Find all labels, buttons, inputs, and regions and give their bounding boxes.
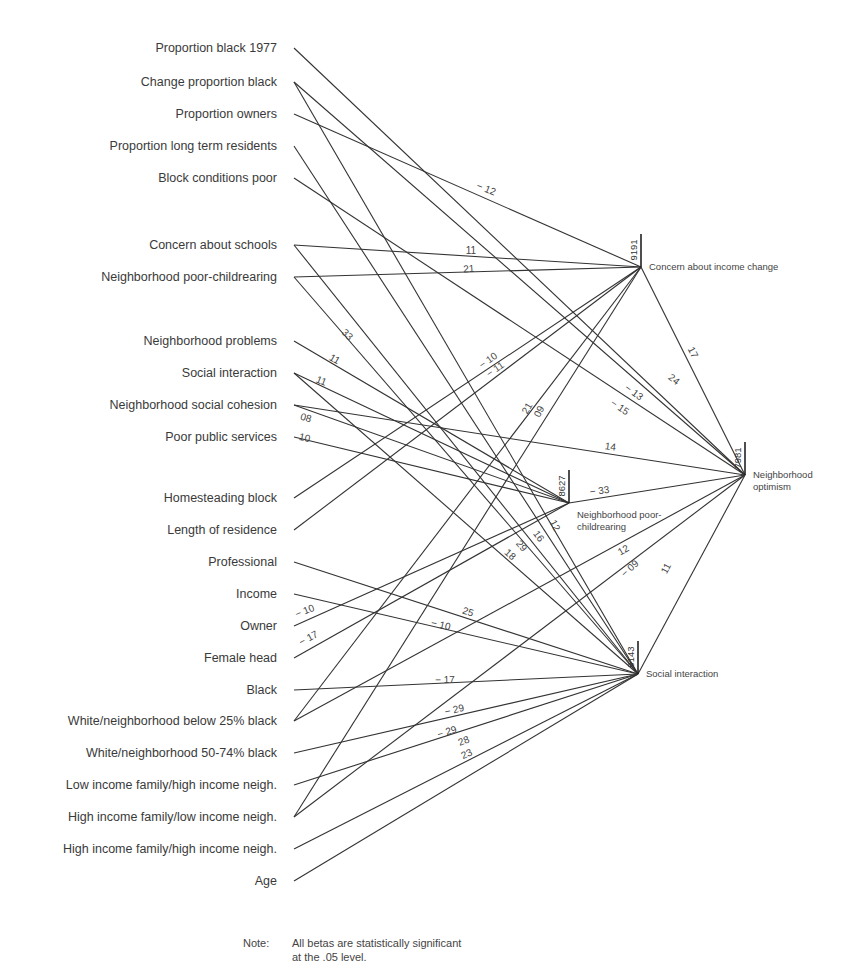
predictor-label: Neighborhood social cohesion [110,398,278,412]
beta-coefficient: − 10 [430,617,452,632]
predictor-label: High income family/low income neigh. [68,810,277,824]
beta-coefficient: − 09 [619,557,641,579]
path-edge [294,405,569,503]
predictor-label: Social interaction [182,366,277,380]
path-edge [294,178,745,475]
predictor-label: Concern about schools [149,238,277,252]
predictor-label: Female head [204,651,277,665]
note-label: Note: [243,937,269,949]
predictor-label: Length of residence [167,523,277,537]
path-edge [294,503,569,626]
predictor-label: Block conditions poor [158,171,277,185]
beta-coefficient: − 17 [435,674,455,685]
beta-coefficient: 11 [314,374,328,388]
outcome-label-line2: childrearing [577,521,626,532]
beta-coefficient: 12 [548,518,563,533]
path-edge [294,503,569,658]
predictor-label: White/neighborhood below 25% black [68,714,278,728]
path-edge [294,674,638,785]
predictor-label: Neighborhood problems [144,334,277,348]
r2-value: 9191 [628,239,639,260]
r2-value: 7981 [732,447,743,468]
path-edge [294,562,638,674]
predictor-label: High income family/high income neigh. [63,842,277,856]
path-edge [294,373,569,503]
predictor-label: Change proportion black [141,75,278,89]
outcome-label: Social interaction [646,668,718,679]
path-edge [294,267,641,817]
beta-coefficient: 33 [340,327,356,343]
beta-coefficient: − 17 [297,628,320,647]
beta-coefficient: 11 [659,561,674,576]
r2-value: 8627 [556,475,567,496]
path-diagram: 9191862791437981 24− 1312− 1229− 1511162… [0,0,860,969]
beta-coefficient: − 33 [589,484,611,498]
path-edge [638,475,745,674]
outcome-label: Neighborhood poor- [577,509,662,520]
path-edge [294,674,638,690]
path-edge [294,267,641,498]
beta-coefficient: − 29 [436,723,459,739]
predictor-label: Black [246,683,277,697]
beta-coefficient: 08 [299,411,313,425]
r2-value: 9143 [625,646,636,667]
note-text-line1: All betas are statistically significant [292,937,461,949]
beta-coefficient: 14 [604,440,617,452]
predictor-labels: Proportion black 1977Change proportion b… [63,41,278,888]
path-edges [294,48,745,881]
beta-coefficient: − 15 [609,397,632,417]
beta-coefficient: 21 [463,263,475,275]
note-text-line2: at the .05 level. [292,951,367,963]
beta-coefficient: 11 [328,352,343,367]
path-edge [641,267,745,475]
predictor-label: Neighborhood poor-childrearing [101,270,277,284]
predictor-label: Poor public services [165,430,277,444]
predictor-label: Age [255,874,277,888]
predictor-label: Owner [240,619,277,633]
beta-coefficient: 24 [666,371,682,387]
outcome-label-line2: optimism [753,481,791,492]
beta-coefficient: 10 [298,431,312,444]
predictor-label: Proportion long term residents [110,139,277,153]
beta-coefficient: − 10 [293,602,316,620]
predictor-label: Low income family/high income neigh. [66,778,277,792]
predictor-label: Professional [208,555,277,569]
beta-coefficient: 18 [503,547,519,563]
predictor-label: Income [236,587,277,601]
outcome-label: Neighborhood [753,469,813,480]
r-squared-bars: 9191862791437981 [556,234,745,674]
path-edge [294,82,638,674]
predictor-label: Homesteading block [164,491,278,505]
path-edge [294,475,745,721]
beta-coefficient: 28 [456,733,471,748]
predictor-label: White/neighborhood 50-74% black [86,746,278,760]
path-edge [294,674,638,849]
outcome-labels: Concern about income changeNeighborhood … [577,261,813,679]
predictor-label: Proportion black 1977 [155,41,277,55]
outcome-label: Concern about income change [649,261,778,272]
predictor-label: Proportion owners [176,107,277,121]
beta-coefficient: 11 [466,245,477,256]
beta-coefficient: 17 [686,345,701,360]
